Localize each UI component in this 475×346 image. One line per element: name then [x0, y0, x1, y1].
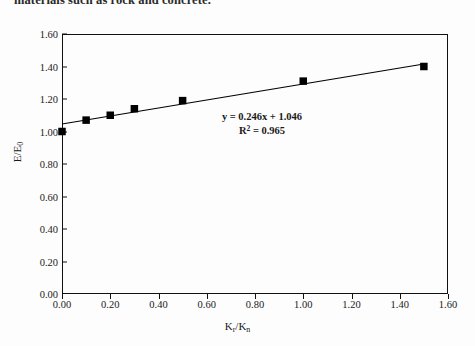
x-tick-label: 1.40: [375, 299, 425, 310]
y-axis-title-slash: /: [11, 152, 23, 155]
y-tick-label: 0.20: [22, 256, 58, 267]
y-tick-mark: [62, 196, 67, 197]
r2-value: = 0.965: [250, 125, 285, 136]
y-tick-mark: [62, 229, 67, 230]
x-tick-mark: [303, 294, 304, 299]
page-canvas: materials such as rock and concrete. 0.0…: [0, 0, 475, 346]
y-tick-mark: [62, 99, 67, 100]
x-tick-label: 0.20: [85, 299, 135, 310]
x-tick-mark: [400, 294, 401, 299]
x-tick-mark: [159, 294, 160, 299]
y-axis-title-e2: E: [11, 146, 23, 153]
y-tick-label: 0.40: [22, 224, 58, 235]
x-tick-label: 1.20: [327, 299, 377, 310]
y-tick-mark: [62, 66, 67, 67]
x-tick-mark: [110, 294, 111, 299]
x-tick-mark: [255, 294, 256, 299]
x-tick-label: 0.80: [230, 299, 280, 310]
y-tick-label: 1.40: [22, 61, 58, 72]
y-tick-mark: [62, 261, 67, 262]
regression-equation: y = 0.246x + 1.046: [196, 110, 328, 124]
y-tick-mark: [62, 164, 67, 165]
x-tick-label: 0.40: [134, 299, 184, 310]
x-axis-title-sub-n: n: [246, 325, 250, 334]
y-axis-title-e1: E: [11, 156, 23, 163]
x-tick-label: 1.00: [278, 299, 328, 310]
x-tick-mark: [62, 294, 63, 299]
x-tick-label: 0.60: [182, 299, 232, 310]
regression-r2: R2 = 0.965: [196, 124, 328, 138]
x-tick-label: 0.00: [37, 299, 87, 310]
y-tick-mark: [62, 34, 67, 35]
y-tick-mark: [62, 131, 67, 132]
plot-frame: [62, 34, 448, 294]
scatter-chart: 0.000.200.400.600.801.001.201.401.60 0.0…: [0, 0, 475, 346]
x-tick-mark: [448, 294, 449, 299]
x-tick-label: 1.60: [423, 299, 473, 310]
regression-annotation: y = 0.246x + 1.046 R2 = 0.965: [196, 110, 328, 138]
x-tick-mark: [207, 294, 208, 299]
y-tick-label: 1.00: [22, 126, 58, 137]
y-axis-title-sub-zero: 0: [16, 142, 25, 146]
y-tick-label: 0.80: [22, 159, 58, 170]
x-axis-title: Kr/Kn: [0, 320, 475, 334]
y-tick-label: 1.20: [22, 94, 58, 105]
x-tick-mark: [352, 294, 353, 299]
y-tick-label: 0.60: [22, 191, 58, 202]
y-tick-label: 1.60: [22, 29, 58, 40]
x-axis-title-k1: K: [225, 320, 233, 332]
y-tick-label: 0.00: [22, 289, 58, 300]
y-axis-title: E/E0: [11, 112, 25, 192]
